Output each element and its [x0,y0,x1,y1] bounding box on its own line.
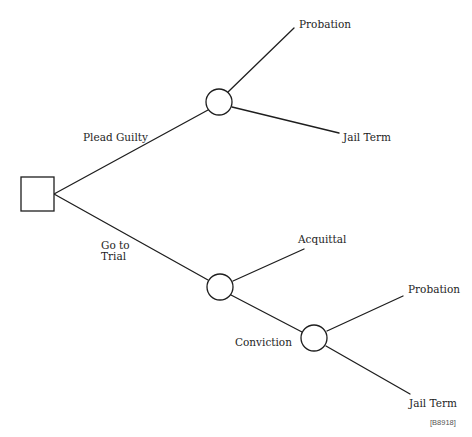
label-plead-jail-term: Jail Term [343,132,391,143]
branch-plead-guilty [54,110,208,194]
branch-conviction-probation [327,296,403,331]
decision-tree-diagram: Plead Guilty Go to Trial Probation Jail … [0,0,472,437]
label-plead-guilty: Plead Guilty [83,132,148,143]
label-acquittal: Acquittal [298,234,346,245]
figure-code: [B8918] [430,418,456,427]
label-conviction: Conviction [235,337,292,348]
chance-node-conviction [301,325,327,351]
decision-node-square [21,177,54,211]
branch-conviction-jail-term [326,346,410,394]
chance-node-trial [207,274,233,300]
tree-graphics [0,0,472,437]
branch-conviction [231,295,302,332]
branch-plead-probation [228,28,294,92]
label-go-to-trial: Go to Trial [101,240,130,262]
branch-go-to-trial [54,194,208,280]
label-conviction-probation: Probation [408,284,460,295]
chance-node-plead [206,89,232,115]
label-plead-probation: Probation [299,19,351,30]
branch-plead-jail-term [232,107,339,133]
label-conviction-jail-term: Jail Term [409,398,457,409]
branch-acquittal [233,249,304,281]
